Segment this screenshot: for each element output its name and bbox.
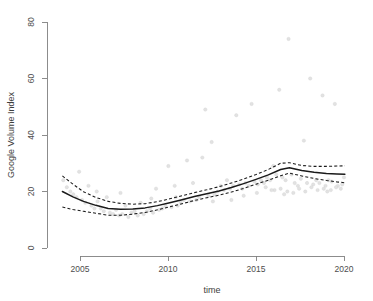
scatter-point xyxy=(124,204,127,207)
scatter-point xyxy=(316,188,319,191)
y-axis-group: 020406080 xyxy=(26,17,47,250)
scatter-point xyxy=(173,184,176,187)
scatter-point xyxy=(297,187,300,190)
x-axis-tick-label: 2015 xyxy=(247,264,266,274)
x-axis-tick-label: 2020 xyxy=(335,264,354,274)
scatter-point xyxy=(250,102,253,105)
scatter-point xyxy=(65,186,68,189)
scatter-point xyxy=(77,170,80,173)
scatter-point xyxy=(318,181,321,184)
scatter-point xyxy=(95,190,98,193)
scatter-point xyxy=(278,88,281,91)
scatter-point xyxy=(333,102,336,105)
chart-canvas: 020406080 2005201020152020 Google Volume… xyxy=(0,0,373,301)
y-axis-tick-label: 40 xyxy=(26,130,36,140)
scatter-point xyxy=(93,207,96,210)
x-axis-group: 2005201020152020 xyxy=(71,256,354,274)
scatter-point xyxy=(211,200,214,203)
scatter-point xyxy=(230,198,233,201)
scatter-point xyxy=(334,186,337,189)
scatter-point xyxy=(102,210,105,213)
scatter-point xyxy=(326,190,329,193)
scatter-point xyxy=(339,187,342,190)
x-axis-tick-label: 2010 xyxy=(159,264,178,274)
scatter-point xyxy=(191,181,194,184)
scatter-point xyxy=(167,164,170,167)
scatter-point xyxy=(305,181,308,184)
scatter-point xyxy=(286,190,289,193)
scatter-point xyxy=(69,190,72,193)
scatter-point xyxy=(322,187,325,190)
y-axis-tick-label: 20 xyxy=(26,187,36,197)
scatter-point xyxy=(225,179,228,182)
scatter-point xyxy=(284,179,287,182)
scatter-point xyxy=(210,140,213,143)
scatter-point xyxy=(108,211,111,214)
scatter-point xyxy=(310,186,313,189)
scatter-point xyxy=(204,108,207,111)
fitted-trend-line xyxy=(62,168,344,210)
chart-figure: 020406080 2005201020152020 Google Volume… xyxy=(0,0,373,301)
scatter-point xyxy=(255,191,258,194)
scatter-point xyxy=(275,173,278,176)
scatter-point xyxy=(119,191,122,194)
scatter-point xyxy=(201,156,204,159)
scatter-point xyxy=(342,176,345,179)
scatter-point xyxy=(304,190,307,193)
scatter-point xyxy=(235,114,238,117)
scatter-point xyxy=(259,179,262,182)
x-axis-tick-label: 2005 xyxy=(71,264,90,274)
scatter-point xyxy=(72,193,75,196)
scatter-point xyxy=(207,194,210,197)
scatter-point xyxy=(279,187,282,190)
scatter-point xyxy=(287,37,290,40)
scatter-point xyxy=(341,183,344,186)
scatter-point xyxy=(292,191,295,194)
confidence-band-line xyxy=(62,163,344,205)
scatter-point xyxy=(127,215,130,218)
x-axis-title: time xyxy=(203,285,220,295)
scatter-point xyxy=(150,197,153,200)
scatter-point xyxy=(293,181,296,184)
scatter-point xyxy=(270,188,273,191)
scatter-point xyxy=(281,176,284,179)
scatter-points-group xyxy=(62,37,346,218)
fitted-trend-line-group xyxy=(62,168,344,210)
scatter-point xyxy=(136,214,139,217)
scatter-point xyxy=(154,187,157,190)
scatter-point xyxy=(321,94,324,97)
scatter-point xyxy=(309,77,312,80)
y-axis-tick-label: 80 xyxy=(26,17,36,27)
scatter-point xyxy=(96,200,99,203)
scatter-point xyxy=(302,139,305,142)
scatter-point xyxy=(185,159,188,162)
scatter-point xyxy=(87,184,90,187)
y-axis-tick-label: 60 xyxy=(26,74,36,84)
y-axis-tick-label: 0 xyxy=(26,245,36,250)
scatter-point xyxy=(282,193,285,196)
scatter-point xyxy=(299,177,302,180)
scatter-point xyxy=(242,194,245,197)
y-axis-title: Google Volume Index xyxy=(6,91,16,178)
scatter-point xyxy=(133,210,136,213)
scatter-point xyxy=(264,186,267,189)
scatter-point xyxy=(329,188,332,191)
scatter-point xyxy=(105,195,108,198)
scatter-point xyxy=(62,179,65,182)
